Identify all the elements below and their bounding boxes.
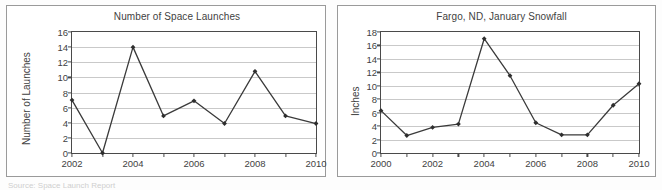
x-tick-mark [193, 153, 194, 157]
x-tick-label: 2002 [61, 158, 82, 169]
chart-title: Number of Space Launches [7, 11, 325, 22]
x-tick-mark [380, 153, 381, 157]
y-tick-label: 18 [366, 27, 377, 38]
x-tick-label: 2008 [577, 158, 598, 169]
x-tick-mark [613, 153, 614, 157]
chart-panel-space-launches: Number of Space Launches Number of Launc… [6, 5, 326, 177]
y-tick-label: 4 [63, 117, 68, 128]
x-tick-mark [315, 153, 316, 157]
data-point [131, 45, 136, 50]
x-tick-label: 2010 [628, 158, 649, 169]
x-tick-label: 2006 [183, 158, 204, 169]
series-line-fargo-snowfall [381, 32, 639, 153]
chart-panel-fargo-snowfall: Fargo, ND, January Snowfall Inches 02468… [337, 5, 656, 177]
data-point [559, 132, 564, 137]
y-tick-label: 0 [372, 148, 377, 159]
x-tick-mark [224, 153, 225, 157]
x-tick-mark [638, 153, 639, 157]
x-tick-label: 2006 [525, 158, 546, 169]
x-tick-label: 2002 [422, 158, 443, 169]
x-tick-mark [163, 153, 164, 157]
data-point [430, 125, 435, 130]
x-tick-mark [285, 153, 286, 157]
x-tick-label: 2004 [122, 158, 143, 169]
y-tick-label: 6 [63, 102, 68, 113]
x-tick-label: 2008 [244, 158, 265, 169]
y-tick-label: 6 [372, 107, 377, 118]
x-tick-mark [458, 153, 459, 157]
y-tick-label: 10 [366, 80, 377, 91]
x-tick-mark [561, 153, 562, 157]
data-point [314, 121, 319, 126]
x-tick-mark [509, 153, 510, 157]
x-tick-label: 2000 [370, 158, 391, 169]
x-tick-mark [254, 153, 255, 157]
y-tick-label: 16 [366, 40, 377, 51]
figure-sheet: Number of Space Launches Number of Launc… [0, 0, 662, 190]
x-tick-mark [432, 153, 433, 157]
data-point [533, 120, 538, 125]
x-tick-mark [484, 153, 485, 157]
y-tick-label: 10 [57, 72, 68, 83]
y-tick-label: 8 [372, 94, 377, 105]
y-tick-label: 2 [372, 134, 377, 145]
y-tick-label: 12 [57, 57, 68, 68]
y-tick-label: 14 [366, 53, 377, 64]
y-tick-label: 8 [63, 87, 68, 98]
x-tick-mark [406, 153, 407, 157]
y-tick-label: 14 [57, 42, 68, 53]
y-tick-label: 16 [57, 27, 68, 38]
plot-area: 024681012141620022004200620082010 [71, 31, 317, 154]
page-artifact-text: Source: Space Launch Report [8, 181, 128, 190]
y-tick-label: 4 [372, 121, 377, 132]
x-tick-label: 2004 [474, 158, 495, 169]
y-tick-label: 12 [366, 67, 377, 78]
x-tick-mark [71, 153, 72, 157]
y-tick-label: 2 [63, 132, 68, 143]
x-tick-mark [587, 153, 588, 157]
y-axis-label: Number of Launches [21, 52, 32, 145]
series-line-space-launches [72, 32, 316, 153]
x-tick-label: 2010 [305, 158, 326, 169]
plot-area: 024681012141618200020022004200620082010 [380, 31, 640, 154]
x-tick-mark [535, 153, 536, 157]
chart-title: Fargo, ND, January Snowfall [338, 11, 655, 22]
y-axis-label: Inches [350, 87, 361, 116]
data-point [456, 122, 461, 127]
y-tick-label: 0 [63, 148, 68, 159]
data-point [161, 114, 166, 119]
x-tick-mark [132, 153, 133, 157]
